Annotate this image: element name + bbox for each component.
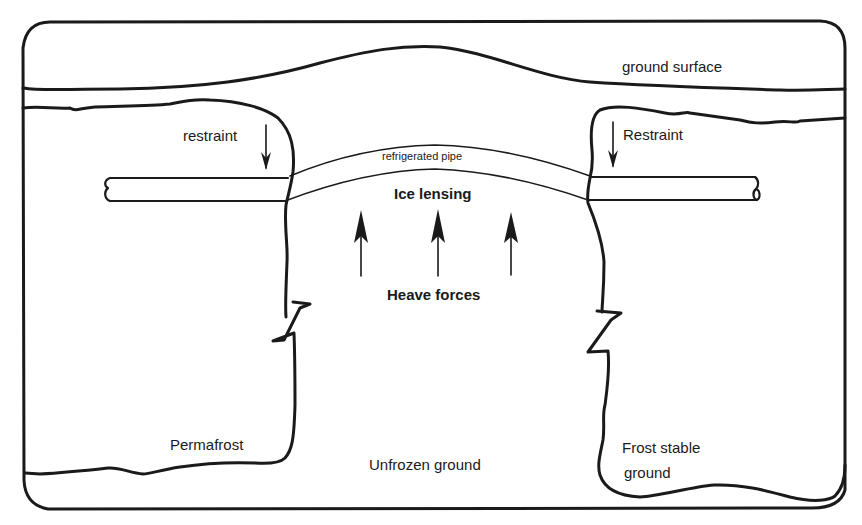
ice-lensing-label: Ice lensing bbox=[394, 186, 472, 201]
pipe-left-segment bbox=[105, 178, 288, 201]
pipe-right-segment bbox=[588, 177, 760, 200]
ground-surface-label: ground surface bbox=[622, 59, 722, 74]
permafrost-label: Permafrost bbox=[170, 437, 243, 452]
heave-arrow-3 bbox=[504, 212, 518, 275]
restraint-right-label: Restraint bbox=[623, 127, 683, 142]
permafrost-boundary-lower bbox=[25, 302, 310, 474]
heave-arrow-1 bbox=[354, 210, 368, 276]
refrigerated-pipe-label: refrigerated pipe bbox=[382, 151, 462, 162]
heave-arrow-2 bbox=[431, 209, 445, 276]
permafrost-boundary bbox=[23, 100, 294, 317]
frost-heave-diagram bbox=[0, 0, 862, 525]
restraint-arrow-left bbox=[261, 125, 271, 170]
restraint-arrow-right bbox=[608, 122, 618, 168]
heave-forces-label: Heave forces bbox=[387, 287, 480, 302]
frost-stable-label-line2: ground bbox=[624, 465, 671, 480]
restraint-left-label: restraint bbox=[183, 128, 237, 143]
outer-frame bbox=[23, 21, 845, 509]
unfrozen-ground-label: Unfrozen ground bbox=[369, 457, 481, 472]
frost-stable-label-line1: Frost stable bbox=[622, 440, 700, 455]
